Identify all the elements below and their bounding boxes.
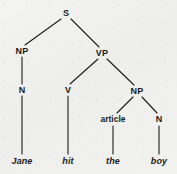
tree-node-np1: NP [16,47,29,56]
tree-leaf-hit: hit [62,157,73,166]
syntax-tree-diagram: SNPVPNVNParticleNJanehittheboy [0,0,177,174]
tree-node-n2: N [156,115,163,124]
tree-node-n1: N [19,86,26,95]
tree-edge-vp-to-np2 [107,59,134,85]
tree-leaf-boy: boy [151,157,167,166]
tree-edge-np2-to-n2 [142,97,157,113]
tree-edge-np2-to-article [117,97,133,113]
tree-edge-s-to-vp [71,19,99,47]
tree-node-np2: NP [131,87,144,96]
tree-edge-s-to-np1 [25,19,61,45]
tree-leaf-jane: Jane [12,157,33,166]
tree-node-article: article [100,115,125,124]
tree-leaf-the: the [106,157,120,166]
tree-edge-vp-to-v [70,59,98,84]
tree-node-v: V [65,86,71,95]
tree-edges-layer [0,0,177,174]
tree-node-s: S [63,9,69,18]
tree-node-vp: VP [96,49,108,58]
